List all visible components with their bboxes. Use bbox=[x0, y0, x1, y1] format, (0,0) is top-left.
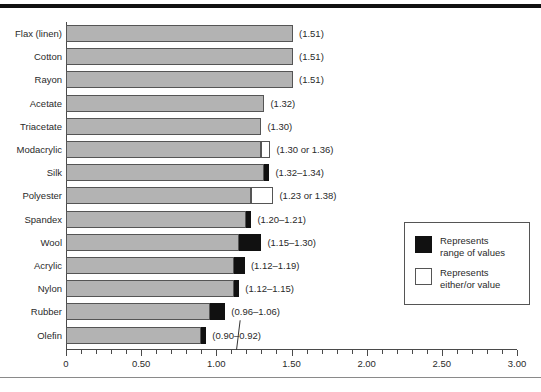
category-label: Wool bbox=[4, 231, 62, 254]
legend-range-line2: range of values bbox=[440, 247, 505, 258]
x-tick-minor bbox=[502, 350, 503, 354]
bar-row: Acetate(1.32) bbox=[0, 92, 541, 115]
x-tick-minor bbox=[307, 350, 308, 354]
bar-row: Cotton(1.51) bbox=[0, 45, 541, 68]
x-tick-minor bbox=[427, 350, 428, 354]
category-label: Triacetate bbox=[4, 115, 62, 138]
bar-value-label: (1.30) bbox=[267, 118, 292, 135]
bar-row: Modacrylic(1.30 or 1.36) bbox=[0, 138, 541, 161]
bar-segment-range bbox=[246, 211, 251, 228]
x-tick-minor bbox=[472, 350, 473, 354]
x-tick-minor bbox=[457, 350, 458, 354]
x-tick-major bbox=[216, 350, 217, 356]
x-tick-minor bbox=[171, 350, 172, 354]
x-tick-label: 1.50 bbox=[282, 358, 301, 369]
bar-segment-range bbox=[264, 164, 269, 181]
category-label: Flax (linen) bbox=[4, 22, 62, 45]
bar-segment-range bbox=[234, 280, 239, 297]
x-tick-label: 0 bbox=[63, 358, 68, 369]
x-tick-minor bbox=[81, 350, 82, 354]
bar-segment-value bbox=[66, 95, 264, 112]
x-tick-major bbox=[141, 350, 142, 356]
bar-value-label: (1.20–1.21) bbox=[257, 211, 306, 228]
category-label: Rubber bbox=[4, 300, 62, 323]
x-tick-minor bbox=[397, 350, 398, 354]
bar-segment-either bbox=[251, 187, 274, 204]
legend-entry-range: Represents range of values bbox=[415, 235, 505, 258]
bar-value-label: (1.51) bbox=[299, 25, 324, 42]
x-tick-label: 0.50 bbox=[132, 358, 151, 369]
x-tick-major bbox=[442, 350, 443, 356]
bar-segment-value bbox=[66, 71, 293, 88]
x-tick-minor bbox=[322, 350, 323, 354]
x-tick-major bbox=[292, 350, 293, 356]
bar-segment-value bbox=[66, 187, 251, 204]
x-tick-minor bbox=[231, 350, 232, 354]
category-label: Nylon bbox=[4, 277, 62, 300]
bar-segment-value bbox=[66, 211, 246, 228]
x-tick-major bbox=[517, 350, 518, 356]
bar bbox=[66, 327, 517, 344]
category-label: Modacrylic bbox=[4, 138, 62, 161]
bar-segment-value bbox=[66, 141, 261, 158]
bar-value-label: (1.12–1.15) bbox=[245, 280, 294, 297]
legend-entry-either: Represents either/or value bbox=[415, 267, 500, 290]
x-tick-minor bbox=[201, 350, 202, 354]
legend-range-line1: Represents bbox=[440, 235, 489, 246]
legend-label-range: Represents range of values bbox=[440, 235, 505, 258]
bar-segment-value bbox=[66, 257, 234, 274]
x-tick-minor bbox=[126, 350, 127, 354]
bar-segment-range bbox=[234, 257, 245, 274]
bar-value-label: (1.32) bbox=[270, 95, 295, 112]
x-tick-minor bbox=[276, 350, 277, 354]
category-label: Silk bbox=[4, 161, 62, 184]
x-tick-major bbox=[66, 350, 67, 356]
bar-segment-range bbox=[239, 234, 262, 251]
legend-either-line1: Represents bbox=[440, 267, 489, 278]
figure: 00.501.001.502.002.503.00 Flax (linen)(1… bbox=[0, 0, 541, 392]
bar-row: Polyester(1.23 or 1.38) bbox=[0, 184, 541, 207]
category-label: Acetate bbox=[4, 92, 62, 115]
bar-value-label: (1.51) bbox=[299, 71, 324, 88]
x-tick-minor bbox=[111, 350, 112, 354]
bar-row: Silk(1.32–1.34) bbox=[0, 161, 541, 184]
legend-label-either: Represents either/or value bbox=[440, 267, 500, 290]
bar bbox=[66, 71, 517, 88]
category-label: Polyester bbox=[4, 184, 62, 207]
x-tick-label: 1.00 bbox=[207, 358, 226, 369]
category-label: Olefin bbox=[4, 324, 62, 347]
x-tick-minor bbox=[156, 350, 157, 354]
legend-either-line2: either/or value bbox=[440, 279, 500, 290]
bar-value-label: (1.15–1.30) bbox=[267, 234, 316, 251]
x-tick-minor bbox=[186, 350, 187, 354]
bar-value-label: (1.12–1.19) bbox=[251, 257, 300, 274]
x-tick-minor bbox=[261, 350, 262, 354]
x-tick-minor bbox=[352, 350, 353, 354]
bar-segment-range bbox=[201, 327, 206, 344]
bar-row: Flax (linen)(1.51) bbox=[0, 22, 541, 45]
x-tick-minor bbox=[246, 350, 247, 354]
bar-value-label: (1.32–1.34) bbox=[275, 164, 324, 181]
x-tick-label: 2.50 bbox=[433, 358, 452, 369]
legend-swatch-black-icon bbox=[415, 236, 432, 253]
x-tick-minor bbox=[382, 350, 383, 354]
category-label: Cotton bbox=[4, 45, 62, 68]
x-tick-minor bbox=[337, 350, 338, 354]
bar-segment-value bbox=[66, 280, 234, 297]
bar bbox=[66, 303, 517, 320]
bar-row: Olefin(0.90–0.92) bbox=[0, 324, 541, 347]
bar-value-label: (1.23 or 1.38) bbox=[279, 187, 336, 204]
bar-segment-either bbox=[261, 141, 270, 158]
bar-segment-value bbox=[66, 25, 293, 42]
x-tick-label: 3.00 bbox=[508, 358, 527, 369]
x-tick-major bbox=[367, 350, 368, 356]
x-tick-minor bbox=[487, 350, 488, 354]
bar-segment-value bbox=[66, 164, 264, 181]
bar-row: Rayon(1.51) bbox=[0, 68, 541, 91]
x-tick-minor bbox=[96, 350, 97, 354]
category-label: Spandex bbox=[4, 208, 62, 231]
bar-segment-range bbox=[210, 303, 225, 320]
bar bbox=[66, 25, 517, 42]
bar bbox=[66, 48, 517, 65]
legend-swatch-white-icon bbox=[415, 268, 432, 285]
